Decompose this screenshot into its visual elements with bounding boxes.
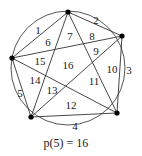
circle-chord-diagram: 12345678910111213141516 p(5) = 16 — [0, 0, 142, 156]
chord-right-bottom-left — [31, 36, 122, 117]
region-label-12: 12 — [66, 99, 77, 111]
caption: p(5) = 16 — [44, 136, 89, 150]
region-label-16: 16 — [63, 59, 75, 71]
point-bottom-right — [114, 110, 119, 115]
point-left — [9, 55, 14, 60]
point-right — [119, 33, 124, 38]
region-label-1: 1 — [35, 24, 41, 36]
region-label-13: 13 — [47, 84, 59, 96]
point-bottom-left — [28, 114, 33, 119]
region-label-9: 9 — [93, 45, 99, 57]
region-label-15: 15 — [35, 55, 47, 67]
region-label-7: 7 — [67, 30, 73, 42]
chord-right-bottom-right — [117, 36, 122, 113]
region-label-4: 4 — [72, 120, 78, 132]
region-label-2: 2 — [93, 14, 99, 26]
region-label-3: 3 — [126, 64, 132, 76]
chord-bottom-right-bottom-left — [31, 113, 117, 117]
region-label-8: 8 — [89, 30, 95, 42]
region-label-14: 14 — [30, 74, 42, 86]
region-label-5: 5 — [17, 87, 23, 99]
region-label-11: 11 — [89, 75, 100, 87]
point-top — [65, 9, 70, 14]
region-label-10: 10 — [107, 63, 119, 75]
region-label-6: 6 — [45, 36, 51, 48]
